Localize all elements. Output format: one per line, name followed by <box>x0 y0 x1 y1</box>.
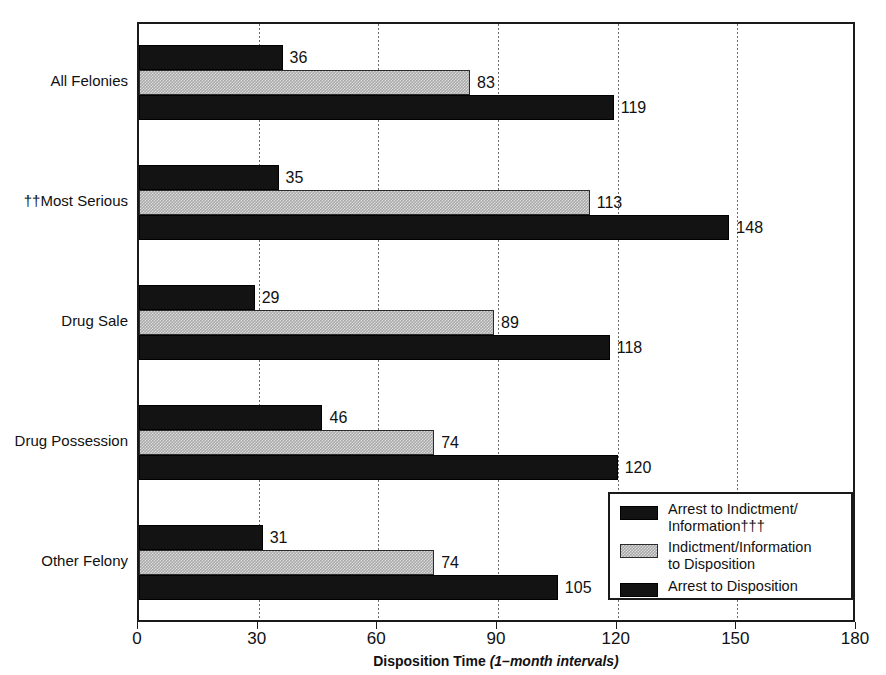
bar-value-label: 120 <box>625 460 652 476</box>
bar-value-label: 46 <box>329 410 347 426</box>
x-tick-label: 60 <box>367 630 386 647</box>
x-tick-mark <box>137 622 138 629</box>
legend-item: Arrest to Indictment/ Information††† <box>620 501 845 534</box>
x-tick-label: 120 <box>601 630 629 647</box>
bar <box>139 190 590 215</box>
category-label: All Felonies <box>0 73 128 88</box>
x-tick-mark <box>616 622 617 629</box>
bar-value-label: 29 <box>262 290 280 306</box>
bar <box>139 285 255 310</box>
x-tick-mark <box>257 622 258 629</box>
bar-value-label: 74 <box>441 435 459 451</box>
legend-swatch-icon <box>620 544 658 558</box>
bar-value-label: 119 <box>621 100 647 116</box>
x-tick-label: 30 <box>247 630 266 647</box>
bar <box>139 405 322 430</box>
bar <box>139 45 283 70</box>
category-label: Drug Possession <box>0 433 128 448</box>
chart-screenshot: 368311935113148298911846741203174105 All… <box>0 0 886 675</box>
bar-value-label: 113 <box>597 195 623 211</box>
bar <box>139 335 610 360</box>
legend-item-label: Indictment/Information to Disposition <box>668 539 811 572</box>
x-axis-title: Disposition Time (1–month intervals) <box>137 654 855 668</box>
legend-item: Arrest to Disposition <box>620 578 845 597</box>
x-tick-mark <box>855 622 856 629</box>
bar-value-label: 36 <box>290 50 308 66</box>
legend-item-label: Arrest to Indictment/ Information††† <box>668 501 798 534</box>
category-label: ††Most Serious <box>0 193 128 208</box>
bar-value-label: 89 <box>501 315 519 331</box>
bar <box>139 215 729 240</box>
bar <box>139 550 434 575</box>
bar-value-label: 35 <box>286 170 304 186</box>
bar <box>139 575 558 600</box>
bar-value-label: 118 <box>617 340 643 356</box>
legend-swatch-icon <box>620 583 658 597</box>
bar <box>139 165 279 190</box>
legend-swatch-icon <box>620 506 658 520</box>
bar-value-label: 148 <box>736 220 763 236</box>
bar <box>139 70 470 95</box>
bar <box>139 95 614 120</box>
x-tick-label: 0 <box>132 630 141 647</box>
x-tick-mark <box>376 622 377 629</box>
category-label: Other Felony <box>0 553 128 568</box>
bar-value-label: 74 <box>441 555 459 571</box>
bar-value-label: 83 <box>477 75 495 91</box>
x-tick-label: 180 <box>841 630 869 647</box>
x-tick-label: 150 <box>721 630 749 647</box>
category-label: Drug Sale <box>0 313 128 328</box>
x-axis-title-units: (1–month intervals) <box>490 653 619 669</box>
bar-value-label: 105 <box>565 580 592 596</box>
chart-legend: Arrest to Indictment/ Information†††Indi… <box>608 492 853 600</box>
bar <box>139 525 263 550</box>
bar <box>139 310 494 335</box>
x-tick-mark <box>496 622 497 629</box>
bar <box>139 455 618 480</box>
bar <box>139 430 434 455</box>
x-axis-title-main: Disposition Time <box>373 653 486 669</box>
bar-value-label: 31 <box>270 530 288 546</box>
x-tick-mark <box>735 622 736 629</box>
legend-item: Indictment/Information to Disposition <box>620 539 845 572</box>
legend-item-label: Arrest to Disposition <box>668 578 798 595</box>
x-tick-label: 90 <box>487 630 506 647</box>
